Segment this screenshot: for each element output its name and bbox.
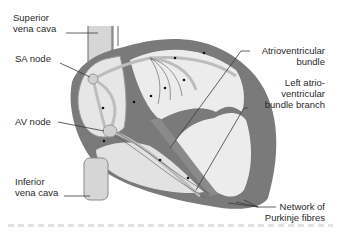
label-line: Superior — [13, 12, 56, 23]
cropped-caption-remnant — [8, 224, 333, 227]
vessel-stub — [113, 26, 118, 50]
label-inferior-vena-cava: Inferior vena cava — [15, 176, 58, 198]
label-superior-vena-cava: Superior vena cava — [13, 12, 56, 34]
label-line: Atrioventricular — [262, 45, 325, 56]
label-purkinje-network: Network of Purkinje fibres — [265, 201, 325, 223]
label-line: Network of — [265, 201, 325, 212]
inferior-vena-cava-shape — [84, 158, 108, 200]
label-av-node: AV node — [15, 116, 51, 127]
sa-node-shape — [88, 74, 98, 84]
label-line: Purkinje fibres — [265, 212, 325, 223]
label-line: vena cava — [15, 187, 58, 198]
label-left-bundle-branch: Left atrio- ventricular bundle branch — [265, 77, 325, 110]
label-line: bundle — [262, 56, 325, 67]
heart-conduction-diagram: Superior vena cava SA node AV node Infer… — [0, 0, 339, 232]
label-atrioventricular-bundle: Atrioventricular bundle — [262, 45, 325, 67]
label-line: Left atrio- — [265, 77, 325, 88]
label-line: Inferior — [15, 176, 58, 187]
label-line: vena cava — [13, 23, 56, 34]
label-line: bundle branch — [265, 99, 325, 110]
label-line: ventricular — [265, 88, 325, 99]
av-node-shape — [103, 125, 117, 137]
label-sa-node: SA node — [15, 53, 51, 64]
